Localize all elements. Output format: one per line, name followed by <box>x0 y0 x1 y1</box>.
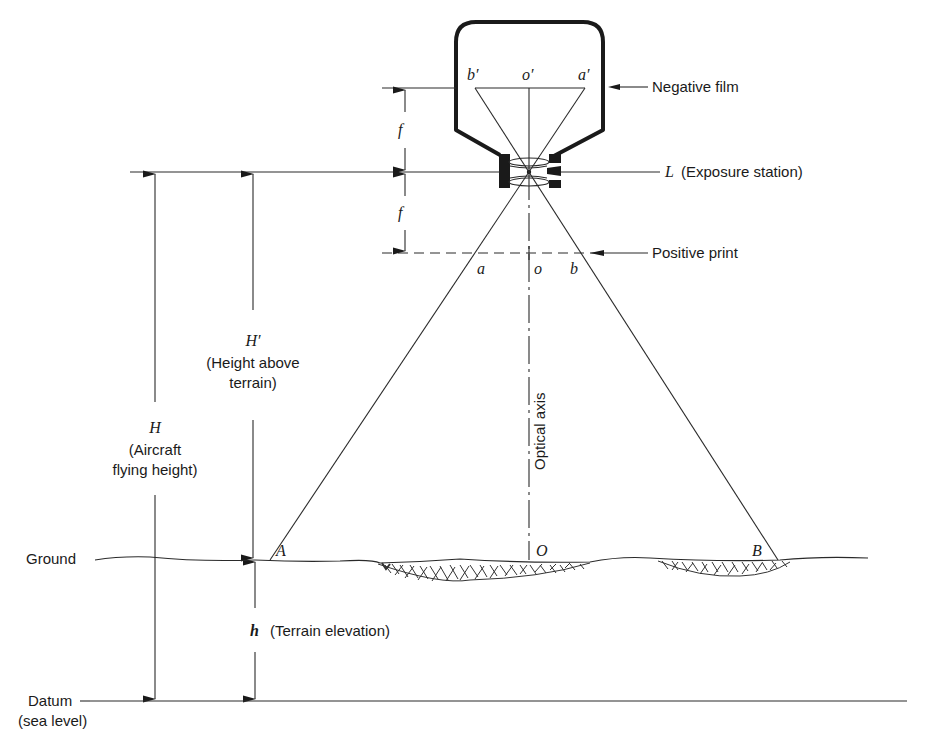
label-negative-film: Negative film <box>652 78 739 95</box>
label-H-line1: (Aircraft <box>129 441 182 458</box>
positive-print-pointer <box>590 250 648 256</box>
label-h-symbol: h <box>250 622 259 639</box>
terrain-hatching <box>378 561 790 581</box>
label-b: b <box>570 260 578 277</box>
label-ground-O: O <box>536 542 548 559</box>
label-a-prime: a′ <box>578 66 590 83</box>
label-terrain-elevation: (Terrain elevation) <box>270 622 390 639</box>
label-a: a <box>477 260 485 277</box>
label-H-symbol: H <box>148 419 162 436</box>
label-ground-A: A <box>275 542 286 559</box>
label-o: o <box>534 260 542 277</box>
label-datum: Datum <box>28 692 72 709</box>
label-H-prime-line2: terrain) <box>229 374 277 391</box>
label-focal-length-top: f <box>398 121 405 139</box>
label-exposure-station-symbol: L <box>664 163 674 180</box>
label-ground-B: B <box>752 542 762 559</box>
negative-film-pointer <box>608 84 648 90</box>
lens-mount-right-top <box>549 154 561 163</box>
label-H-prime-line1: (Height above <box>206 354 299 371</box>
label-sea-level: (sea level) <box>18 712 87 729</box>
label-o-prime: o′ <box>522 66 534 83</box>
label-H-line2: flying height) <box>112 461 197 478</box>
label-ground: Ground <box>26 550 76 567</box>
label-optical-axis: Optical axis <box>531 392 548 470</box>
label-H-prime-symbol: H′ <box>244 332 261 349</box>
lens-mount-left <box>499 154 510 188</box>
label-positive-print: Positive print <box>652 244 739 261</box>
ray-b-prime-to-B <box>475 88 778 560</box>
lens-mount-right-bottom <box>549 180 561 188</box>
aerial-photo-geometry-diagram: b′ o′ a′ Negative film L (Exposure stati… <box>0 0 927 744</box>
label-focal-length-bottom: f <box>398 204 405 222</box>
ray-a-prime-to-A <box>270 88 585 560</box>
label-exposure-station: (Exposure station) <box>681 163 803 180</box>
label-b-prime: b′ <box>467 66 479 83</box>
